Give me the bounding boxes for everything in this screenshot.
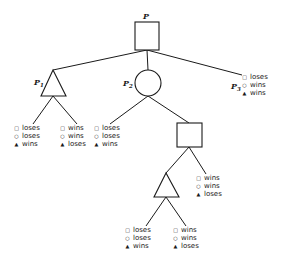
leaf-inner-triangle-left: □loses ○loses ▲wins	[124, 226, 151, 250]
p2-label: P2	[122, 78, 133, 89]
edge-root-p1	[53, 50, 147, 70]
p2-circle-node	[135, 70, 161, 96]
triangle-player-icon: ▲	[93, 140, 100, 148]
circle-player-icon: ○	[93, 132, 100, 140]
circle-player-icon: ○	[124, 234, 131, 242]
edge-inner-triangle-right	[166, 197, 186, 226]
inner-triangle-node	[154, 173, 179, 197]
p3-label: P3	[230, 81, 241, 92]
triangle-player-icon: ▲	[124, 242, 131, 250]
edge-p2-inner-square	[148, 96, 189, 123]
edge-inner-triangle-left	[146, 197, 166, 226]
circle-player-icon: ○	[172, 234, 179, 242]
triangle-player-icon: ▲	[195, 190, 202, 198]
edge-inner-square-triangle	[166, 147, 189, 173]
root-square-node	[135, 22, 159, 50]
square-player-icon: □	[59, 124, 66, 132]
square-player-icon: □	[195, 174, 202, 182]
triangle-player-icon: ▲	[13, 140, 20, 148]
leaf-inner-triangle-right: □wins ○wins ▲loses	[172, 226, 199, 250]
edge-p1-left	[33, 96, 53, 124]
leaf-inner-square-right: □wins ○wins ▲loses	[195, 174, 222, 198]
edge-root-p2	[147, 50, 148, 70]
circle-player-icon: ○	[241, 81, 248, 89]
root-label: P	[142, 11, 150, 21]
triangle-player-icon: ▲	[241, 89, 248, 97]
circle-player-icon: ○	[59, 132, 66, 140]
p1-triangle-node	[41, 70, 66, 96]
square-player-icon: □	[13, 124, 20, 132]
leaf-p2-left: □loses ○loses ▲wins	[93, 124, 120, 148]
leaf-p1-left: □loses ○loses ▲wins	[13, 124, 40, 148]
edge-root-p3	[147, 50, 242, 75]
leaf-p1-right: □wins ○wins ▲loses	[59, 124, 86, 148]
inner-square-node	[177, 123, 202, 147]
edge-p2-left	[110, 96, 148, 124]
p1-label: P1	[33, 77, 44, 88]
circle-player-icon: ○	[13, 132, 20, 140]
triangle-player-icon: ▲	[172, 242, 179, 250]
leaf-p3: □loses ○wins ▲wins	[241, 73, 268, 97]
circle-player-icon: ○	[195, 182, 202, 190]
game-tree-diagram: P P1 P2 P3	[0, 0, 283, 262]
triangle-player-icon: ▲	[59, 140, 66, 148]
edge-inner-square-right	[189, 147, 206, 174]
square-player-icon: □	[93, 124, 100, 132]
square-player-icon: □	[172, 226, 179, 234]
edge-p1-right	[53, 96, 77, 124]
square-player-icon: □	[241, 73, 248, 81]
square-player-icon: □	[124, 226, 131, 234]
